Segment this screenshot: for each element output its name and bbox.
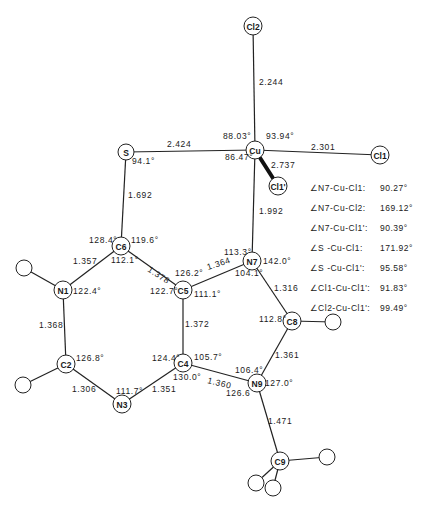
bond-length-label: 1.357 [73, 256, 97, 266]
angle-label: ∠N7-Cu-Cl1': [310, 223, 378, 233]
atom-label: Cl1' [270, 182, 285, 192]
bond-angle-label: 105.7° [194, 352, 222, 362]
bond-angle-label: 126.2° [175, 268, 203, 278]
angle-label: ∠N7-Cu-Cl2: [310, 203, 378, 213]
bond-length-label: 1.351 [152, 384, 176, 394]
atom-circle-icon [319, 449, 335, 465]
bond-cu-n7 [252, 150, 255, 261]
bond-angle-label: 122.7° [150, 286, 178, 296]
bond-length-label: 1.372 [185, 319, 209, 329]
bond-cl2-cu [253, 26, 255, 150]
bond-angle-label: 104.1° [235, 268, 263, 278]
bond-length-label: 1.306 [72, 384, 96, 394]
bond-length-label: 1.316 [274, 283, 298, 293]
bond-angle-label: 113.3° [224, 247, 252, 257]
angle-value: 90.39° [378, 223, 408, 233]
bond-angle-label: 126.8° [76, 353, 104, 363]
atom-circle-icon [265, 480, 281, 496]
coordination-angle-table: ∠N7-Cu-Cl1: 90.27° ∠N7-Cu-Cl2: 169.12° ∠… [310, 178, 430, 318]
bond-length-label: 2.301 [311, 142, 335, 152]
atom-cl1: Cl1 [371, 146, 389, 164]
bond-angle-label: 86.47° [225, 152, 253, 162]
hydrogen-atom [15, 377, 31, 393]
angle-row-n7-cu-cl1prime: ∠N7-Cu-Cl1': 90.39° [310, 218, 430, 238]
bond-length-label: 1.368 [39, 320, 63, 330]
angle-value: 91.83° [378, 283, 408, 293]
bond-angle-label: 94.1° [132, 156, 155, 166]
atom-label: C8 [287, 317, 298, 327]
bond-length-label: 1.992 [259, 206, 283, 216]
atom-label: N3 [117, 400, 128, 410]
hydrogen-atom [319, 449, 335, 465]
atom-label: C2 [61, 360, 72, 370]
bond-angle-label: 128.4° [89, 235, 117, 245]
angle-value: 90.27° [378, 183, 408, 193]
angle-row-n7-cu-cl2: ∠N7-Cu-Cl2: 169.12° [310, 198, 430, 218]
atom-circle-icon [15, 377, 31, 393]
atom-label: C9 [275, 457, 286, 467]
hydrogen-atom [16, 260, 32, 276]
bond-angle-label: 127.0° [265, 378, 293, 388]
hydrogen-atom [265, 480, 281, 496]
atom-n9: N9 [248, 374, 266, 392]
atom-label: N9 [252, 379, 263, 389]
bond-angle-label: 130.0° [173, 372, 201, 382]
bond-length-label: 2.424 [167, 139, 191, 149]
atom-circle-icon [248, 475, 264, 491]
bond-length-label: 1.361 [275, 350, 299, 360]
atom-label: N1 [58, 286, 69, 296]
angle-row-n7-cu-cl1: ∠N7-Cu-Cl1: 90.27° [310, 178, 430, 198]
angle-label: ∠Cl1-Cu-Cl1': [310, 283, 378, 293]
atom-label: Cl1 [373, 151, 387, 161]
angle-row-cl1-cu-cl1prime: ∠Cl1-Cu-Cl1': 91.83° [310, 278, 430, 298]
angle-row-s-cu-cl1: ∠S -Cu-Cl1: 171.92° [310, 238, 430, 258]
bond-angle-label: 112.1° [111, 255, 139, 265]
bond-angle-label: 111.7° [116, 386, 143, 396]
angle-value: 95.58° [378, 263, 408, 273]
angle-label: ∠S -Cu-Cl1': [310, 263, 378, 273]
bond-length-label: 1.471 [268, 416, 292, 426]
atom-c9: C9 [271, 452, 289, 470]
atom-circle-icon [16, 260, 32, 276]
bond-length-label: 1.364 [206, 255, 232, 272]
atom-label: S [123, 148, 129, 158]
bond-angle-label: 122.4° [73, 286, 101, 296]
atom-n3: N3 [113, 395, 131, 413]
hydrogen-atom [248, 475, 264, 491]
bond-angle-label: 126.6 [226, 388, 250, 398]
angle-label: ∠Cl2-Cu-Cl1': [310, 303, 378, 313]
atom-label: C5 [178, 286, 189, 296]
bond-length-label: 2.737 [271, 160, 295, 170]
bond-angle-label: 106.4° [235, 365, 263, 375]
atom-label: Cl2 [246, 22, 260, 32]
bond-length-label: 1.378 [146, 264, 172, 286]
bond-angle-label: 93.94° [266, 131, 294, 141]
angle-label: ∠N7-Cu-Cl1: [310, 183, 378, 193]
bond-length-label: 1.692 [128, 190, 152, 200]
bond-angle-label: 142.0° [263, 256, 291, 266]
bond-angle-label: 119.6° [131, 235, 159, 245]
bond-angle-label: 88.03° [223, 131, 251, 141]
angle-value: 99.49° [378, 303, 408, 313]
bond-c6-n1 [63, 246, 121, 290]
angle-value: 171.92° [378, 243, 413, 253]
bond-length-label: 2.244 [259, 77, 283, 87]
atom-cl1p: Cl1' [269, 177, 287, 195]
bond-angle-label: 124.4° [152, 353, 180, 363]
angle-row-s-cu-cl1prime: ∠S -Cu-Cl1': 95.58° [310, 258, 430, 278]
atom-n1: N1 [54, 281, 72, 299]
atom-c2: C2 [57, 355, 75, 373]
bond-s-c6 [121, 152, 126, 246]
atom-cl2: Cl2 [244, 17, 262, 35]
atom-label: N7 [247, 257, 258, 267]
bond-angle-label: 111.1° [194, 289, 221, 299]
angle-value: 169.12° [378, 203, 413, 213]
bond-n1-c2 [63, 290, 66, 364]
bond-angle-label: 112.8° [259, 314, 287, 324]
angle-row-cl2-cu-cl1prime: ∠Cl2-Cu-Cl1': 99.49° [310, 298, 430, 318]
angle-label: ∠S -Cu-Cl1: [310, 243, 378, 253]
